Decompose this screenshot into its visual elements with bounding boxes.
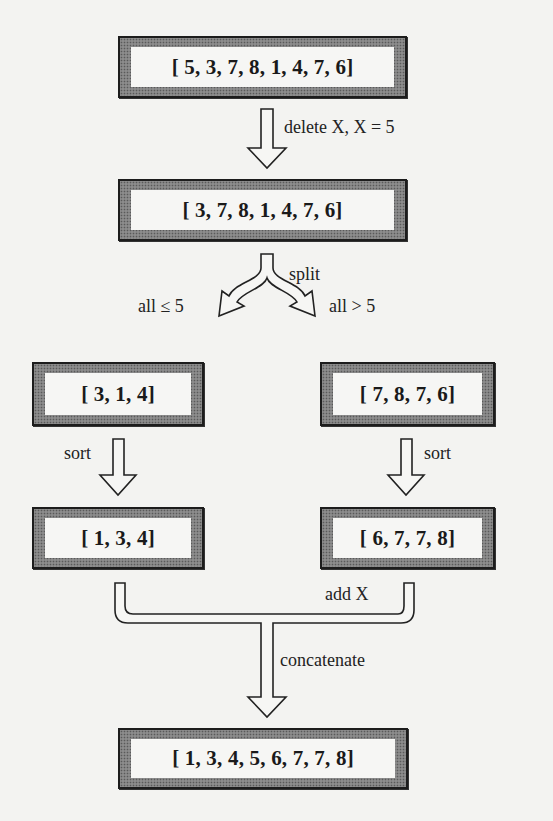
- delete-label: delete X, X = 5: [284, 117, 395, 138]
- right-split-list-text: [ 7, 8, 7, 6]: [333, 373, 482, 415]
- right-condition-label: all > 5: [329, 296, 375, 317]
- concatenate-label: concatenate: [280, 650, 365, 671]
- result-list-box: [ 1, 3, 4, 5, 6, 7, 7, 8]: [118, 728, 408, 789]
- delete-arrow: [248, 109, 286, 168]
- result-list-text: [ 1, 3, 4, 5, 6, 7, 7, 8]: [131, 739, 395, 778]
- left-sorted-list-box: [ 1, 3, 4]: [32, 507, 204, 569]
- right-split-list-box: [ 7, 8, 7, 6]: [320, 362, 495, 426]
- after-delete-list-box: [ 3, 7, 8, 1, 4, 7, 6]: [118, 179, 407, 241]
- input-list-box: [ 5, 3, 7, 8, 1, 4, 7, 6]: [118, 36, 407, 98]
- sort-right-arrow: [388, 439, 424, 495]
- split-label: split: [289, 264, 320, 285]
- left-split-list-box: [ 3, 1, 4]: [32, 362, 204, 426]
- add-x-label: add X: [325, 584, 369, 605]
- left-split-list-text: [ 3, 1, 4]: [45, 373, 191, 415]
- right-sorted-list-text: [ 6, 7, 7, 8]: [333, 518, 482, 558]
- sort-left-arrow: [100, 439, 136, 495]
- merge-concatenate-arrow: [115, 583, 414, 717]
- left-sorted-list-text: [ 1, 3, 4]: [45, 518, 191, 558]
- right-sorted-list-box: [ 6, 7, 7, 8]: [320, 507, 495, 569]
- sort-left-label: sort: [64, 443, 91, 464]
- after-delete-list-text: [ 3, 7, 8, 1, 4, 7, 6]: [131, 190, 394, 230]
- input-list-text: [ 5, 3, 7, 8, 1, 4, 7, 6]: [131, 47, 394, 87]
- sort-right-label: sort: [424, 443, 451, 464]
- left-condition-label: all ≤ 5: [138, 296, 184, 317]
